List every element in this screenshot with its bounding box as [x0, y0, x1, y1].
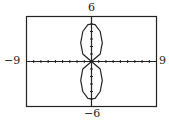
ymax-label: 6	[88, 2, 95, 13]
ymin-label: −6	[84, 108, 100, 119]
xmax-label: 9	[159, 55, 166, 66]
xmin-label: −9	[4, 55, 20, 66]
graph-plot	[0, 0, 169, 121]
